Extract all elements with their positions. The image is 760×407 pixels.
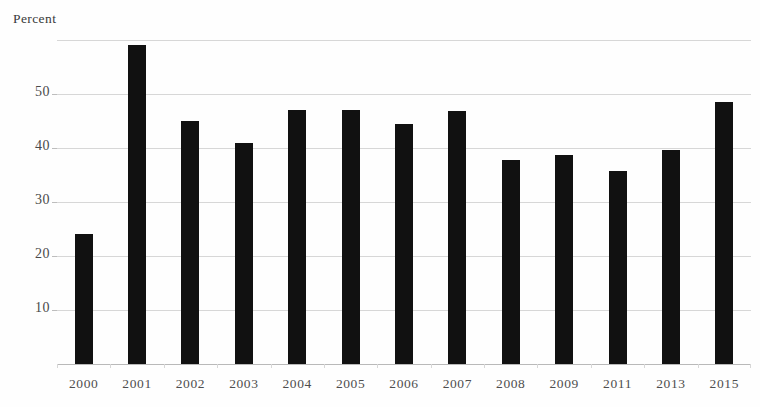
x-tick-mark-2009 <box>537 364 538 368</box>
x-tick-mark-2013 <box>644 364 645 368</box>
bar-2001 <box>128 45 146 364</box>
bar-2015 <box>715 102 733 364</box>
y-tick-mark-50 <box>52 94 57 95</box>
bar-2008 <box>502 160 520 364</box>
x-tick-mark-2004 <box>271 364 272 368</box>
x-tick-label-2015: 2015 <box>698 376 750 392</box>
y-axis-title: Percent <box>13 11 56 27</box>
bars-layer <box>57 40 751 364</box>
x-tick-mark-2002 <box>164 364 165 368</box>
y-tick-mark-30 <box>52 202 57 203</box>
x-tick-mark-2015 <box>698 364 699 368</box>
x-tick-mark-2003 <box>217 364 218 368</box>
y-tick-mark-10 <box>52 310 57 311</box>
x-tick-mark-2001 <box>110 364 111 368</box>
y-tick-label-10: 10 <box>20 300 50 316</box>
x-tick-label-2001: 2001 <box>111 376 163 392</box>
bar-2007 <box>448 111 466 364</box>
y-tick-mark-20 <box>52 256 57 257</box>
bar-2006 <box>395 124 413 364</box>
x-tick-label-2000: 2000 <box>58 376 110 392</box>
x-tick-mark-2008 <box>484 364 485 368</box>
x-tick-label-2007: 2007 <box>431 376 483 392</box>
x-tick-mark-end <box>750 364 751 368</box>
x-tick-mark-2011 <box>591 364 592 368</box>
x-tick-label-2002: 2002 <box>164 376 216 392</box>
x-tick-label-2011: 2011 <box>592 376 644 392</box>
x-tick-label-2008: 2008 <box>485 376 537 392</box>
x-axis: 2000200120022003200420052006200720082009… <box>57 364 751 407</box>
bar-2002 <box>181 121 199 364</box>
bar-2011 <box>609 171 627 364</box>
bar-chart: Percent 1020304050 200020012002200320042… <box>0 0 760 407</box>
bar-2003 <box>235 143 253 364</box>
y-tick-mark-40 <box>52 148 57 149</box>
bar-2009 <box>555 155 573 364</box>
y-tick-label-50: 50 <box>20 84 50 100</box>
x-tick-label-2003: 2003 <box>218 376 270 392</box>
plot-area <box>57 40 751 364</box>
y-tick-label-40: 40 <box>20 138 50 154</box>
x-tick-mark-2006 <box>377 364 378 368</box>
y-tick-label-30: 30 <box>20 192 50 208</box>
x-tick-mark-2007 <box>431 364 432 368</box>
bar-2000 <box>75 234 93 364</box>
x-tick-label-2013: 2013 <box>645 376 697 392</box>
x-tick-mark-2005 <box>324 364 325 368</box>
x-tick-mark-2000 <box>57 364 58 368</box>
x-tick-label-2005: 2005 <box>325 376 377 392</box>
x-tick-label-2004: 2004 <box>271 376 323 392</box>
bar-2005 <box>342 110 360 364</box>
y-axis-tick-labels: 1020304050 <box>14 40 50 364</box>
y-tick-label-20: 20 <box>20 246 50 262</box>
x-tick-label-2009: 2009 <box>538 376 590 392</box>
x-tick-label-2006: 2006 <box>378 376 430 392</box>
bar-2004 <box>288 110 306 364</box>
bar-2013 <box>662 150 680 364</box>
